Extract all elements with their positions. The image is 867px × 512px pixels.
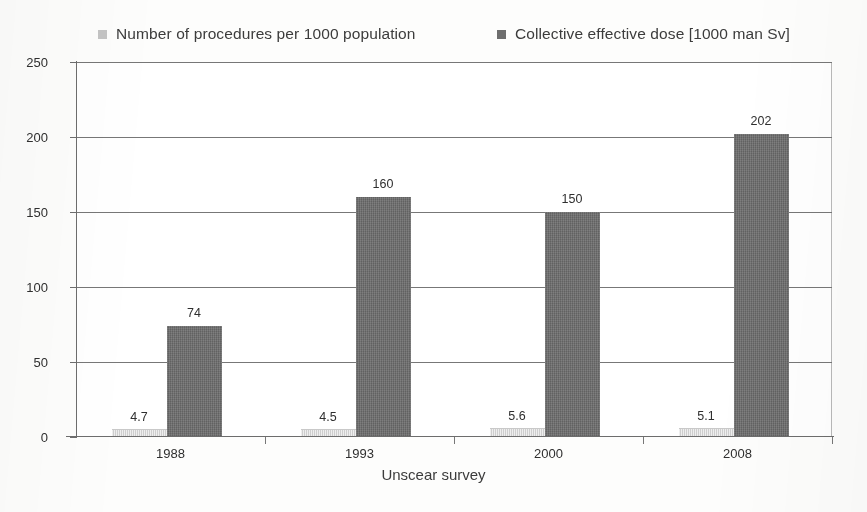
- x-axis-line: [66, 436, 834, 437]
- legend-label-dose: Collective effective dose [1000 man Sv]: [515, 25, 790, 43]
- y-axis-line: [76, 61, 77, 438]
- x-axis-title: Unscear survey: [0, 466, 867, 483]
- bar-group: 4.774: [76, 62, 265, 437]
- legend-swatch-procedures: [98, 30, 107, 39]
- y-tick-label: 200: [0, 130, 48, 145]
- bar-value-procedures: 4.5: [319, 410, 336, 424]
- x-tick-mark: [643, 437, 644, 444]
- bar-value-procedures: 4.7: [130, 410, 147, 424]
- bar-value-procedures: 5.1: [697, 409, 714, 423]
- y-tick-label: 100: [0, 280, 48, 295]
- bar-dose[interactable]: [167, 326, 222, 437]
- x-tick-mark: [832, 437, 833, 444]
- bar-group: 5.1202: [643, 62, 832, 437]
- legend-entry-dose[interactable]: Collective effective dose [1000 man Sv]: [497, 25, 790, 43]
- legend-label-procedures: Number of procedures per 1000 population: [116, 25, 416, 43]
- bar-dose[interactable]: [356, 197, 411, 437]
- chart-page: Number of procedures per 1000 population…: [0, 0, 867, 512]
- y-tick-label: 0: [0, 430, 48, 445]
- bar-value-dose: 74: [187, 306, 201, 320]
- bar-groups: 4.7744.51605.61505.1202: [76, 62, 832, 437]
- bar-dose[interactable]: [545, 212, 600, 437]
- x-tick-label: 1993: [345, 446, 374, 461]
- bar-value-dose: 160: [373, 177, 394, 191]
- bar-value-dose: 202: [751, 114, 772, 128]
- legend-entry-procedures[interactable]: Number of procedures per 1000 population: [98, 25, 416, 43]
- x-tick-mark: [454, 437, 455, 444]
- bar-dose[interactable]: [734, 134, 789, 437]
- y-tick-label: 250: [0, 55, 48, 70]
- x-tick-mark: [265, 437, 266, 444]
- y-tick-label: 50: [0, 355, 48, 370]
- bar-group: 4.5160: [265, 62, 454, 437]
- bar-group: 5.6150: [454, 62, 643, 437]
- x-tick-label: 2000: [534, 446, 563, 461]
- y-tick-label: 150: [0, 205, 48, 220]
- x-tick-label: 2008: [723, 446, 752, 461]
- plot-area: 050100150200250 4.7744.51605.61505.1202 …: [76, 62, 832, 437]
- bar-value-procedures: 5.6: [508, 409, 525, 423]
- legend-swatch-dose: [497, 30, 506, 39]
- chart-legend: Number of procedures per 1000 population…: [0, 24, 867, 54]
- x-tick-label: 1988: [156, 446, 185, 461]
- bar-value-dose: 150: [562, 192, 583, 206]
